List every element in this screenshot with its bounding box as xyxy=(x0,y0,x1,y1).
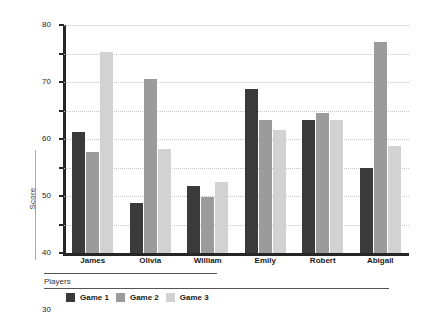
x-axis-tick-label: Robert xyxy=(294,256,352,265)
bar-group xyxy=(64,25,122,253)
bar[interactable] xyxy=(360,168,373,254)
bar[interactable] xyxy=(100,52,113,253)
plot-area: 01020304050607080 xyxy=(64,25,409,253)
y-axis-label: Score xyxy=(28,159,37,239)
bar[interactable] xyxy=(316,113,329,253)
legend-label: Game 2 xyxy=(130,293,159,302)
bar[interactable] xyxy=(302,120,315,253)
y-axis-tick-label: 80 xyxy=(42,20,51,29)
bar[interactable] xyxy=(158,149,171,253)
bar-group xyxy=(352,25,410,253)
legend-swatch-icon xyxy=(116,293,125,302)
bar-chart: Score 01020304050607080 JamesOliviaWilli… xyxy=(0,0,433,322)
x-axis-tick-label: Abigail xyxy=(352,256,410,265)
legend-separator-line xyxy=(44,288,389,289)
legend-item[interactable]: Game 2 xyxy=(116,293,159,302)
bar[interactable] xyxy=(245,89,258,253)
x-axis-tick-labels: JamesOliviaWilliamEmilyRobertAbigail xyxy=(64,256,409,265)
y-axis-tick-label: 60 xyxy=(42,134,51,143)
x-axis-tick-label: William xyxy=(179,256,237,265)
x-axis-tick-label: Olivia xyxy=(122,256,180,265)
x-axis-tick-label: James xyxy=(64,256,122,265)
bar[interactable] xyxy=(259,120,272,253)
bar[interactable] xyxy=(215,182,228,253)
bar[interactable] xyxy=(86,152,99,253)
bar[interactable] xyxy=(388,146,401,253)
legend-swatch-icon xyxy=(166,293,175,302)
x-axis-tick-label: Emily xyxy=(237,256,295,265)
x-axis-separator-line xyxy=(44,273,217,274)
legend: Game 1Game 2Game 3 xyxy=(66,293,209,302)
bar[interactable] xyxy=(130,203,143,253)
bar-group xyxy=(179,25,237,253)
legend-label: Game 1 xyxy=(80,293,109,302)
bar[interactable] xyxy=(273,130,286,253)
legend-item[interactable]: Game 1 xyxy=(66,293,109,302)
y-axis-label-group: Score xyxy=(22,150,36,260)
bar[interactable] xyxy=(72,132,85,253)
y-axis-tick-label: 40 xyxy=(42,248,51,257)
bar[interactable] xyxy=(144,79,157,253)
y-axis-tick-label: 70 xyxy=(42,77,51,86)
legend-swatch-icon xyxy=(66,293,75,302)
x-axis-label: Players xyxy=(44,277,71,286)
legend-item[interactable]: Game 3 xyxy=(166,293,209,302)
y-axis-tick-label: 50 xyxy=(42,191,51,200)
bar[interactable] xyxy=(187,186,200,253)
bar-groups xyxy=(64,25,409,253)
legend-label: Game 3 xyxy=(180,293,209,302)
bar-group xyxy=(122,25,180,253)
bar[interactable] xyxy=(374,42,387,253)
bar[interactable] xyxy=(330,120,343,253)
bar-group xyxy=(237,25,295,253)
bar-group xyxy=(294,25,352,253)
bar[interactable] xyxy=(201,197,214,253)
y-axis-tick-label: 30 xyxy=(42,305,51,314)
